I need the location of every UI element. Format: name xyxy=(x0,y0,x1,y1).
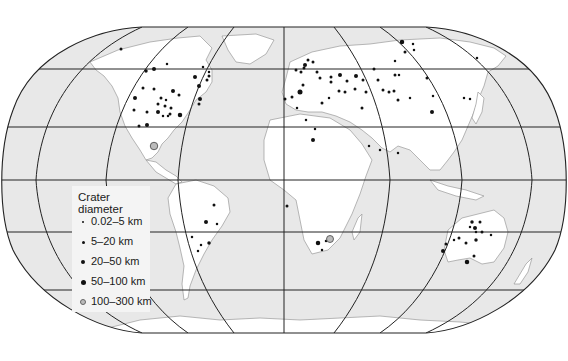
crater-marker xyxy=(316,241,321,246)
crater-marker xyxy=(145,123,149,127)
crater-marker xyxy=(441,249,445,253)
crater-marker xyxy=(286,205,289,208)
crater-marker xyxy=(197,250,200,253)
crater-marker xyxy=(397,99,400,102)
crater-marker xyxy=(409,97,412,100)
crater-marker xyxy=(373,68,376,71)
crater-marker xyxy=(453,239,456,242)
crater-marker xyxy=(178,113,183,118)
crater-marker xyxy=(470,220,474,224)
crater-marker xyxy=(150,142,158,150)
crater-marker xyxy=(327,236,334,243)
crater-marker xyxy=(469,98,472,101)
crater-marker xyxy=(298,90,303,95)
marker-large-icon xyxy=(78,274,88,288)
crater-marker xyxy=(207,241,211,245)
crater-marker xyxy=(142,87,145,90)
crater-marker xyxy=(120,48,123,51)
crater-marker xyxy=(362,79,365,82)
crater-marker xyxy=(365,91,368,94)
crater-marker xyxy=(463,97,466,100)
crater-marker xyxy=(153,88,156,91)
crater-marker xyxy=(368,145,371,148)
crater-marker xyxy=(160,97,163,100)
crater-marker xyxy=(144,69,148,73)
crater-marker xyxy=(166,63,169,66)
land-antarctica xyxy=(100,316,540,361)
crater-marker xyxy=(354,74,358,78)
crater-marker xyxy=(388,91,391,94)
crater-marker xyxy=(316,71,319,74)
crater-marker xyxy=(394,74,397,77)
crater-marker xyxy=(208,75,211,78)
crater-marker xyxy=(170,107,173,110)
crater-marker xyxy=(197,84,201,88)
crater-marker xyxy=(473,226,477,230)
crater-marker xyxy=(393,90,396,93)
marker-ring-icon xyxy=(78,294,88,308)
crater-marker xyxy=(202,66,205,69)
crater-marker xyxy=(379,149,382,152)
crater-marker xyxy=(198,97,202,101)
crater-marker xyxy=(138,125,141,128)
crater-marker xyxy=(314,128,317,131)
crater-marker xyxy=(394,60,397,63)
crater-marker xyxy=(169,113,172,116)
legend-item-5-20km: 5–20 km xyxy=(78,233,133,247)
crater-marker xyxy=(479,221,482,224)
legend-item-20-50km: 20–50 km xyxy=(78,253,139,267)
crater-marker xyxy=(216,223,219,226)
crater-marker xyxy=(432,95,435,98)
crater-marker xyxy=(412,43,415,46)
crater-marker xyxy=(382,89,385,92)
crater-marker xyxy=(398,74,401,77)
crater-marker xyxy=(312,61,315,64)
crater-marker xyxy=(361,107,364,110)
crater-marker xyxy=(377,79,380,82)
crater-marker xyxy=(208,71,211,74)
crater-marker xyxy=(426,77,429,80)
marker-tiny-icon xyxy=(78,214,88,228)
crater-marker xyxy=(213,204,216,207)
crater-marker xyxy=(465,242,468,245)
crater-marker xyxy=(303,67,306,70)
crater-marker xyxy=(474,238,478,242)
crater-marker xyxy=(354,88,357,91)
crater-marker xyxy=(191,236,194,239)
crater-marker xyxy=(430,110,434,114)
crater-marker xyxy=(291,96,294,99)
crater-marker xyxy=(206,79,209,82)
crater-marker xyxy=(305,119,308,122)
crater-marker xyxy=(330,81,333,84)
crater-marker xyxy=(490,234,493,237)
crater-marker xyxy=(157,103,160,106)
crater-marker xyxy=(465,260,470,265)
crater-marker xyxy=(300,71,303,74)
crater-marker xyxy=(302,84,305,87)
crater-marker xyxy=(198,103,201,106)
crater-marker xyxy=(445,243,448,246)
crater-marker xyxy=(397,152,400,155)
crater-marker xyxy=(311,138,315,142)
legend-item-0-5km: 0.02–5 km xyxy=(78,213,142,227)
crater-marker xyxy=(473,255,476,258)
crater-marker xyxy=(152,67,156,71)
crater-marker xyxy=(319,77,322,80)
marker-medium-icon xyxy=(78,254,88,268)
crater-marker xyxy=(146,111,149,114)
marker-small-icon xyxy=(78,234,88,248)
crater-marker xyxy=(178,94,181,97)
crater-marker xyxy=(295,69,298,72)
crater-marker xyxy=(344,91,347,94)
crater-marker xyxy=(400,40,405,45)
crater-marker xyxy=(328,97,331,100)
crater-marker xyxy=(303,63,307,67)
crater-marker xyxy=(156,110,160,114)
crater-marker xyxy=(193,75,197,79)
crater-marker xyxy=(204,220,208,224)
crater-marker xyxy=(413,49,416,52)
crater-marker xyxy=(133,96,137,100)
crater-marker xyxy=(330,76,333,79)
crater-marker xyxy=(307,59,310,62)
crater-marker xyxy=(404,51,407,54)
